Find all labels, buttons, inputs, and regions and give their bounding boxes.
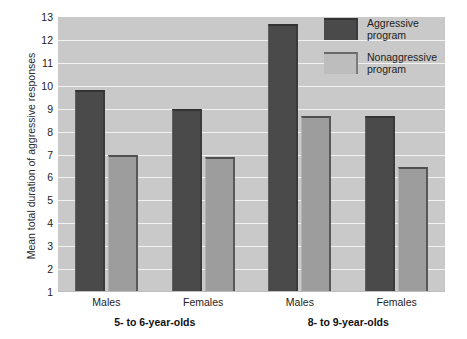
bar-nonagg-2 [301, 116, 331, 292]
bar-agg-0 [75, 90, 105, 292]
y-axis-tick-label: 9 [5, 103, 53, 115]
y-axis-tick-label: 13 [5, 11, 53, 23]
bar-agg-3 [365, 116, 395, 292]
y-axis-tick-label: 3 [5, 240, 53, 252]
y-axis-tick-label: 12 [5, 34, 53, 46]
x-axis-group-label: 5- to 6-year-olds [114, 316, 195, 328]
legend-label-line1: Nonaggressive [367, 52, 437, 64]
chart-legend: AggressiveprogramNonaggressiveprogram [324, 18, 459, 86]
bar-nonagg-3 [398, 167, 428, 292]
legend-label-line2: program [367, 64, 437, 76]
x-axis-tick-label: Males [92, 296, 120, 308]
legend-item: Aggressiveprogram [324, 18, 459, 41]
legend-label-line1: Aggressive [367, 18, 419, 30]
x-axis-baseline [58, 291, 445, 292]
y-axis-tick-label: 11 [5, 57, 53, 69]
dark-swatch [324, 18, 358, 40]
legend-label: Nonaggressiveprogram [367, 52, 437, 75]
bar-agg-1 [172, 109, 202, 292]
bar-agg-2 [268, 24, 298, 292]
legend-item: Nonaggressiveprogram [324, 52, 459, 75]
y-axis-tick-label: 1 [5, 286, 53, 298]
y-axis-tick-label: 7 [5, 149, 53, 161]
light-swatch [324, 52, 358, 74]
y-axis-tick-label: 4 [5, 217, 53, 229]
y-axis-tick-label: 5 [5, 194, 53, 206]
x-axis-group-label: 8- to 9-year-olds [308, 316, 389, 328]
y-axis-tick-label: 6 [5, 171, 53, 183]
y-axis-tick-label: 10 [5, 80, 53, 92]
gridline [58, 109, 445, 110]
y-axis-tick-label: 8 [5, 126, 53, 138]
legend-label: Aggressiveprogram [367, 18, 419, 41]
x-axis-tick-label: Females [376, 296, 416, 308]
bar-nonagg-1 [205, 157, 235, 292]
x-axis-tick-label: Females [183, 296, 223, 308]
x-axis-tick-label: Males [286, 296, 314, 308]
bar-nonagg-0 [108, 155, 138, 293]
legend-label-line2: program [367, 30, 419, 42]
y-axis-tick-label: 2 [5, 263, 53, 275]
bar-chart: Mean total duration of aggressive respon… [0, 0, 467, 339]
y-axis-tick-labels: 12345678910111213 [0, 0, 53, 339]
